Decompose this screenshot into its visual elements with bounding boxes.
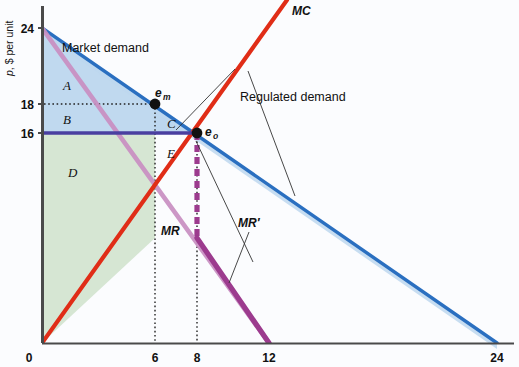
x-tick-label-8: 8 [194,351,201,365]
chart-figure: p, $ per unit 24 18 16 0 6 8 12 24 A B C… [0,0,519,367]
point-label-eo-text: e [205,125,212,139]
regulated-demand-annotation: Regulated demand [240,90,346,104]
point-label-eo-sub: o [213,131,218,141]
region-label-b: B [63,112,71,127]
point-label-em-text: e [155,86,162,100]
mc-annotation: MC [292,4,311,18]
mr-prime-annotation: MR′ [238,216,261,230]
x-tick-label-24: 24 [490,351,504,365]
x-tick-label-6: 6 [152,351,159,365]
y-axis-label: p, $ per unit [3,20,15,77]
mr-annotation: MR [161,224,180,238]
region-label-e: E [166,146,175,161]
region-label-c: C [167,116,176,131]
y-tick-label-24: 24 [21,22,35,36]
monopoly-regulation-chart: p, $ per unit 24 18 16 0 6 8 12 24 A B C… [0,0,519,367]
x-tick-label-12: 12 [262,351,276,365]
x-tick-label-0: 0 [26,351,33,365]
y-tick-label-18: 18 [21,98,35,112]
region-label-a: A [62,78,71,93]
point-em-marker[interactable] [150,99,161,110]
point-label-em-sub: m [163,92,171,102]
point-eo-marker[interactable] [192,128,203,139]
region-label-d: D [67,165,78,180]
y-tick-label-16: 16 [21,127,35,141]
market-demand-annotation: Market demand [62,41,149,55]
